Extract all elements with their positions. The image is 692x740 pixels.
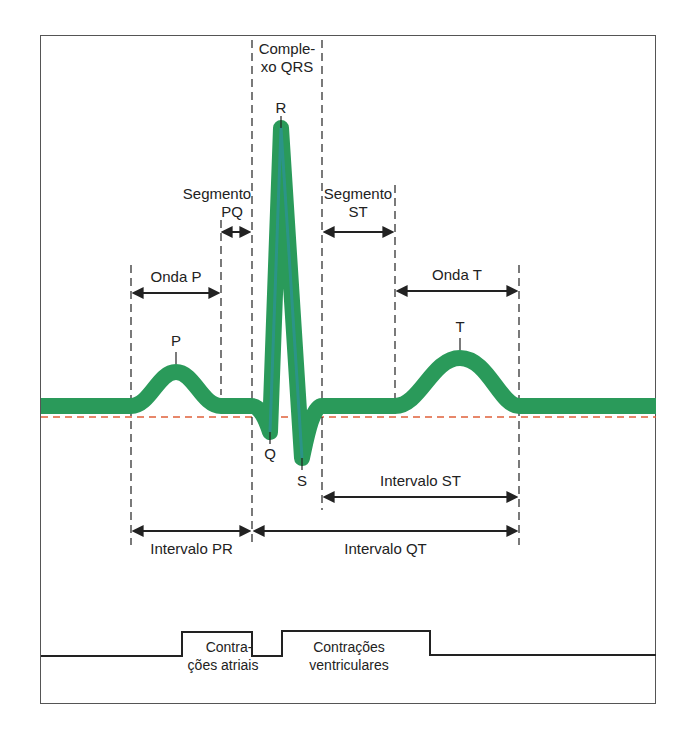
segment-st-line2: ST [318,203,398,221]
peak-s-label: S [292,472,312,490]
wave-t-label: Onda T [398,266,516,284]
qrs-complex-label: Comple- xo QRS [252,40,322,76]
wave-p-label: Onda P [134,268,218,286]
segment-st-label: Segmento ST [318,185,398,221]
segment-pq-line1: Segmento [162,185,272,203]
segment-st-line1: Segmento [318,185,398,203]
segment-pq-line2: PQ [162,203,272,221]
ventricular-contractions-line2: ventriculares [282,656,416,674]
ventricular-contractions-label: Contrações ventriculares [282,638,416,674]
peak-p-label: P [166,332,186,350]
peak-t-label: T [450,318,470,336]
ventricular-contractions-line1: Contrações [282,638,416,656]
peak-r-label: R [271,99,291,117]
qrs-complex-line1: Comple- [252,40,322,58]
interval-qt-label: Intervalo QT [252,540,519,558]
qrs-complex-line2: xo QRS [252,58,322,76]
atrial-contractions-label: Contra- ções atriais [180,638,266,674]
interval-st-label: Intervalo ST [325,472,516,490]
ecg-diagram [0,0,692,740]
interval-pr-label: Intervalo PR [131,540,252,558]
ecg-trace [41,128,656,458]
segment-pq-label: Segmento PQ [162,185,272,221]
atrial-contractions-line1: Contra- [180,638,266,656]
atrial-contractions-line2: ções atriais [180,656,266,674]
peak-q-label: Q [260,445,280,463]
